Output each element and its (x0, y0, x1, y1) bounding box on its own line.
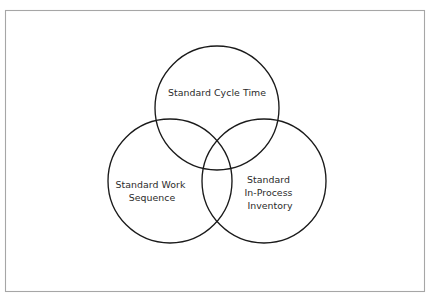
label-standard-in-process-inventory-line3: Inventory (247, 200, 293, 211)
label-standard-cycle-time-line1: Standard Cycle Time (168, 87, 266, 98)
circle-standard-cycle-time[interactable] (155, 46, 279, 170)
label-standard-work-sequence: Standard Work Sequence (115, 179, 188, 203)
outer-frame (6, 11, 425, 292)
label-standard-in-process-inventory: Standard In-Process Inventory (244, 174, 295, 211)
venn-diagram: Standard Cycle Time Standard Work Sequen… (0, 0, 432, 305)
label-standard-work-sequence-line1: Standard Work (115, 179, 186, 190)
venn-diagram-canvas: Standard Cycle Time Standard Work Sequen… (0, 0, 432, 305)
label-standard-in-process-inventory-line1: Standard (247, 174, 290, 185)
label-standard-in-process-inventory-line2: In-Process (244, 187, 292, 198)
label-standard-work-sequence-line2: Sequence (129, 192, 176, 203)
label-standard-cycle-time: Standard Cycle Time (168, 87, 266, 98)
